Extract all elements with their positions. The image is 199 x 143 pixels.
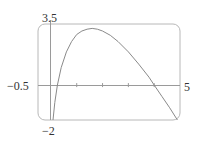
y-min-label: −2	[42, 125, 55, 137]
graph-window	[0, 0, 199, 143]
function-curve	[53, 28, 177, 120]
x-max-label: 5	[184, 81, 190, 93]
viewing-window-frame	[38, 24, 180, 120]
y-max-label: 3.5	[42, 12, 57, 24]
x-min-label: −0.5	[7, 80, 29, 92]
